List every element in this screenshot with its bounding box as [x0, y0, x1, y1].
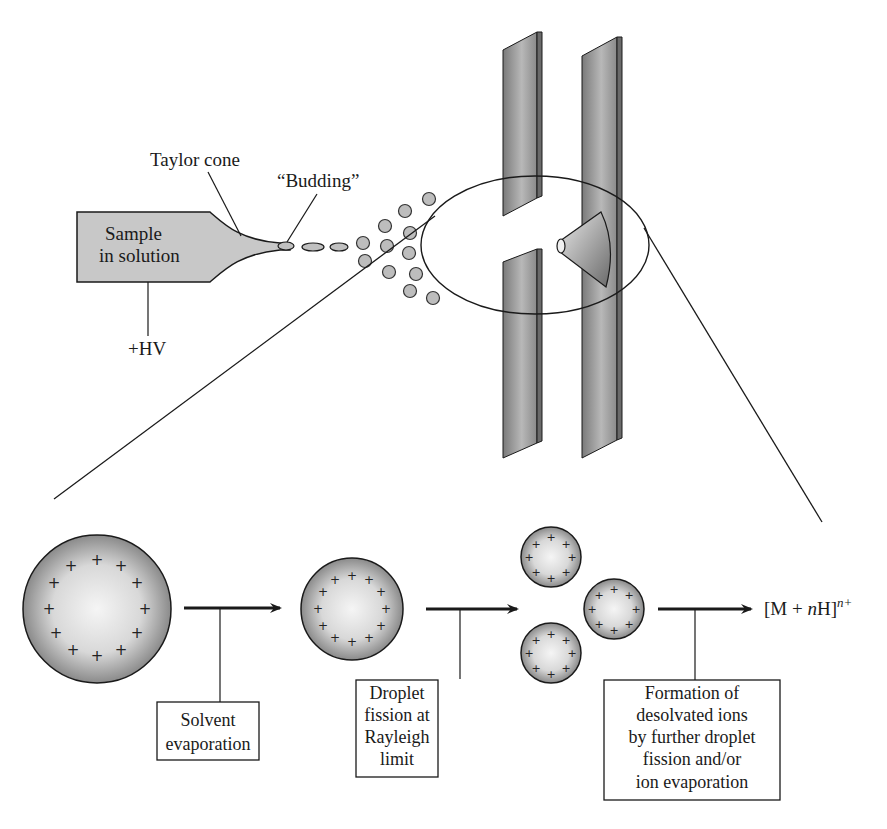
svg-text:+: + — [561, 566, 570, 579]
svg-text:+: + — [609, 583, 618, 596]
step-box-solvent-evaporation: Solvent evaporation — [157, 702, 259, 760]
svg-text:+: + — [546, 531, 555, 544]
spray-droplets — [357, 193, 440, 305]
svg-text:+: + — [330, 631, 340, 645]
budding-label: “Budding” — [277, 170, 359, 191]
svg-text:+: + — [91, 647, 104, 665]
svg-text:ion evaporation: ion evaporation — [636, 772, 748, 792]
svg-text:+: + — [594, 618, 603, 631]
svg-text:+: + — [347, 569, 357, 583]
budding-pointer — [287, 194, 317, 242]
offspring-droplet: ++++ ++++ — [584, 579, 644, 639]
svg-text:+: + — [587, 603, 596, 616]
svg-text:+: + — [531, 566, 540, 579]
svg-text:+: + — [609, 624, 618, 637]
svg-text:desolvated ions: desolvated ions — [636, 705, 747, 725]
svg-text:+: + — [567, 647, 576, 660]
svg-text:+: + — [524, 647, 533, 660]
svg-text:Solvent: Solvent — [180, 710, 235, 730]
svg-text:+: + — [318, 585, 328, 599]
svg-text:evaporation: evaporation — [166, 734, 251, 754]
svg-text:+: + — [67, 641, 80, 659]
svg-text:+: + — [531, 538, 540, 551]
svg-text:+: + — [546, 628, 555, 641]
svg-text:+: + — [524, 551, 533, 564]
svg-text:+: + — [48, 574, 61, 592]
svg-text:+: + — [561, 538, 570, 551]
svg-text:+: + — [546, 572, 555, 585]
svg-text:+: + — [631, 603, 640, 616]
svg-text:+: + — [364, 573, 374, 587]
svg-text:+: + — [115, 557, 128, 575]
svg-text:+: + — [115, 641, 128, 659]
svg-text:+: + — [567, 551, 576, 564]
svg-text:+: + — [330, 573, 340, 587]
svg-text:+: + — [376, 619, 386, 633]
product-ion-label: [M + nH]n+ — [764, 595, 852, 619]
zoom-line-right — [644, 228, 822, 522]
medium-droplet: +++ +++ +++ +++ — [301, 558, 403, 660]
step-box-droplet-fission: Droplet fission at Rayleigh limit — [356, 680, 438, 777]
svg-text:fission and/or: fission and/or — [643, 749, 742, 769]
svg-text:+: + — [65, 557, 78, 575]
svg-text:by further droplet: by further droplet — [629, 727, 756, 747]
offspring-droplet: ++++ ++++ — [521, 527, 581, 587]
svg-text:+: + — [561, 634, 570, 647]
svg-text:+: + — [91, 551, 104, 569]
svg-text:+: + — [531, 634, 540, 647]
svg-text:+: + — [531, 662, 540, 675]
svg-text:+: + — [376, 585, 386, 599]
taylor-cone-label: Taylor cone — [150, 149, 240, 170]
svg-text:+: + — [381, 602, 391, 616]
esi-diagram: Sample in solution +HV Taylor cone “Budd… — [0, 0, 887, 829]
svg-text:+: + — [364, 631, 374, 645]
svg-text:+: + — [347, 635, 357, 649]
large-droplet: +++ +++ +++ +++ — [23, 535, 171, 683]
sampling-plate-front — [503, 32, 542, 458]
elongated-droplet — [330, 243, 348, 251]
sample-label-line1: Sample — [105, 223, 162, 244]
budding-droplet — [278, 242, 294, 250]
svg-text:fission at: fission at — [364, 705, 430, 725]
svg-text:+: + — [624, 589, 633, 602]
svg-text:+: + — [50, 624, 63, 642]
svg-text:+: + — [624, 618, 633, 631]
svg-text:+: + — [131, 574, 144, 592]
svg-text:+: + — [318, 619, 328, 633]
svg-text:+: + — [131, 624, 144, 642]
svg-text:Formation of: Formation of — [645, 683, 740, 703]
svg-text:+: + — [561, 662, 570, 675]
svg-text:+: + — [313, 602, 323, 616]
sample-label-line2: in solution — [99, 245, 180, 266]
svg-text:Rayleigh: Rayleigh — [365, 727, 430, 747]
offspring-droplet: ++++ ++++ — [521, 623, 581, 683]
svg-text:Droplet: Droplet — [370, 683, 425, 703]
svg-text:+: + — [43, 600, 56, 618]
elongated-droplet — [302, 243, 324, 251]
svg-text:+: + — [139, 600, 152, 618]
hv-label: +HV — [128, 338, 166, 359]
svg-text:+: + — [594, 589, 603, 602]
svg-text:+: + — [546, 668, 555, 681]
step-box-ion-formation: Formation of desolvated ions by further … — [604, 680, 780, 800]
svg-text:limit: limit — [380, 749, 414, 769]
